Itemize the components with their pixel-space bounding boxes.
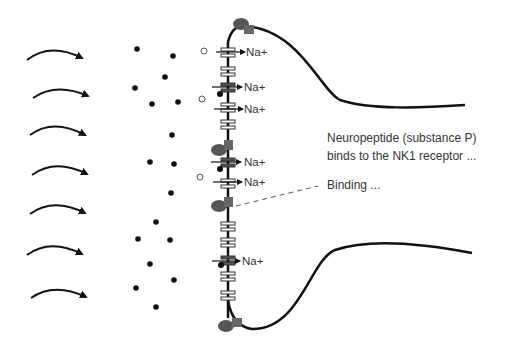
flow-arrow-icon [32,166,87,175]
flow-arrow-icon [30,205,85,214]
annotation-line-1: Neuropeptide (substance P) [327,131,476,145]
annotation-line-2: binds to the NK1 receptor ... [327,149,476,163]
ion-markers [197,48,207,180]
flow-arrow-icon [33,89,88,98]
receptor-icon [211,197,233,212]
nk1-receptors [211,18,254,332]
na-label: Na+ [244,103,266,115]
na-label: Na+ [244,176,266,188]
binding-leader-line [236,186,318,206]
na-label: Na+ [244,81,266,93]
na-label: Na+ [246,46,268,58]
receptor-icon [211,140,233,156]
nk1-receptor-diagram: Na+ Na+ Na+ Na+ Na+ Na+ Neuropeptide (su… [0,0,507,354]
flow-arrow-icon [27,246,82,255]
receptor-icon [233,18,254,34]
flow-arrows [27,50,88,298]
na-labels: Na+ Na+ Na+ Na+ Na+ Na+ [242,46,268,267]
binding-label: Binding ... [327,178,380,192]
receptor-icon [218,318,242,332]
na-label: Na+ [244,156,266,168]
flow-arrow-icon [31,290,86,298]
na-label: Na+ [242,255,264,267]
flow-arrow-icon [27,50,82,60]
flow-arrow-icon [30,127,85,136]
neuropeptide-particles [132,46,181,310]
